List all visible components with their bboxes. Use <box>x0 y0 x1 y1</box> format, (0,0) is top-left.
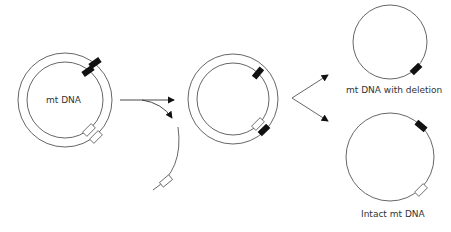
mtdna-deletion-diagram <box>0 0 451 232</box>
intact-mtdna-label: Intact mt DNA <box>361 209 425 219</box>
open-block-outer <box>90 131 103 144</box>
intermediate-mtdna <box>188 54 278 144</box>
arrows-recombination <box>120 100 179 190</box>
open-block-inner <box>83 124 96 137</box>
intact-mtdna <box>346 113 434 201</box>
deleted-mtdna <box>353 5 427 79</box>
excised-fragment-block <box>159 175 172 187</box>
parent-mtdna-label: mt DNA <box>46 95 81 105</box>
deleted-mtdna-label: mt DNA with deletion <box>346 85 442 95</box>
branch-arrows <box>292 75 328 121</box>
filled-block <box>410 63 423 76</box>
open-block <box>415 184 428 197</box>
